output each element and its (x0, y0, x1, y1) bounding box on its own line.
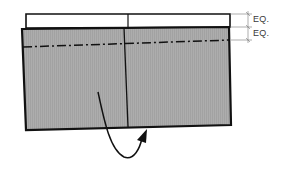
dimension-marks (230, 11, 252, 43)
eq-label-upper: EQ. (253, 15, 269, 24)
eq-label-lower: EQ. (253, 29, 269, 38)
diagram-canvas (0, 0, 285, 170)
top-strip (26, 14, 230, 28)
